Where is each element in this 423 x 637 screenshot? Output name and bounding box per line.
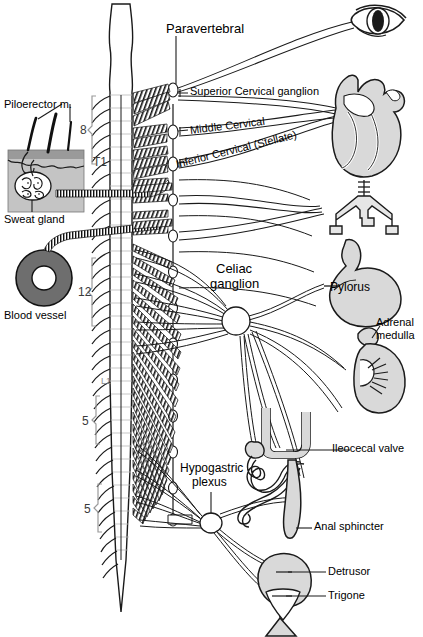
- label-piloerector-muscle: Piloerector m.: [4, 98, 72, 110]
- label-paravertebral: Paravertebral: [166, 22, 244, 37]
- segment-marker-lumbar-count: 5: [82, 414, 89, 428]
- segment-marker-thoracic-count: 8: [80, 123, 87, 137]
- segment-marker-sacral-count: 5: [84, 502, 91, 516]
- label-detrusor: Detrusor: [328, 565, 370, 577]
- label-hypogastric-line1: Hypogastric: [180, 462, 243, 475]
- segment-marker-t1: T1: [93, 155, 107, 169]
- label-adrenal-line2: medulla: [376, 329, 415, 341]
- sympathetic-nervous-system-diagram: Paravertebral Superior Cervical ganglion…: [0, 0, 423, 637]
- label-superior-cervical-ganglion: Superior Cervical ganglion: [190, 85, 319, 97]
- label-celiac-ganglion-line1: Celiac: [216, 262, 252, 277]
- segment-marker-l1: L1: [101, 376, 111, 386]
- label-celiac-ganglion-line2: ganglion: [210, 277, 259, 292]
- label-pylorus: Pylorus: [330, 281, 370, 294]
- label-adrenal-line1: Adrenal: [376, 316, 414, 328]
- label-anal-sphincter: Anal sphincter: [314, 520, 384, 532]
- label-sweat-gland: Sweat gland: [4, 213, 65, 225]
- label-hypogastric-line2: plexus: [192, 476, 227, 489]
- label-ileocecal-valve: Ileocecal valve: [332, 442, 404, 454]
- label-blood-vessel: Blood vessel: [4, 309, 66, 321]
- label-trigone: Trigone: [328, 589, 365, 601]
- blood-vessel-organ: [16, 250, 72, 306]
- segment-marker-thoracolumbar-count: 12: [78, 285, 91, 299]
